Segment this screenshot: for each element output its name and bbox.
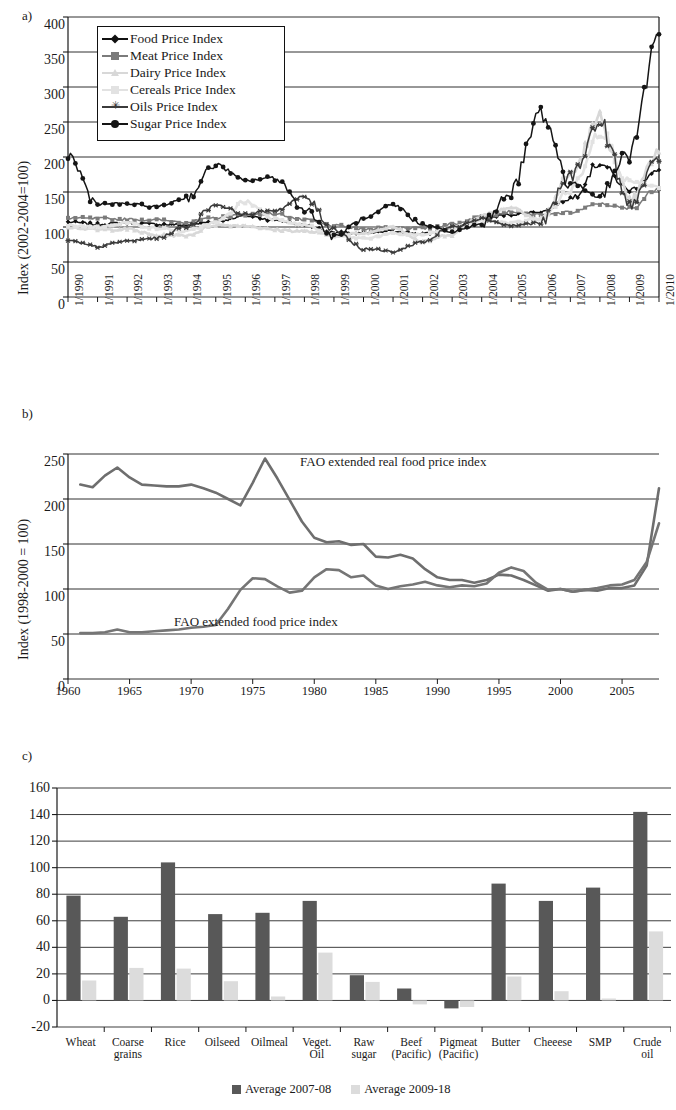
- panel-a-legend-item-0: Food Price Index: [102, 30, 278, 47]
- panel-c-legend-item-0: Average 2007-08: [232, 1082, 331, 1097]
- panel-b-xtick-2000: 2000: [541, 684, 581, 699]
- panel-c-category-smp: SMP: [573, 1036, 627, 1048]
- legend-marker-square-icon: [102, 49, 128, 63]
- panel-a-xtick-1-2008: 1/2008: [605, 274, 617, 306]
- panel-a-xtick-1-1997: 1/1997: [280, 274, 292, 306]
- panel-b-xtick-1975: 1975: [233, 684, 273, 699]
- panel-a-legend-label: Dairy Price Index: [130, 66, 226, 80]
- legend-marker-asterisk-icon: ✳: [102, 100, 128, 114]
- panel-c-legend: Average 2007-08Average 2009-18: [232, 1082, 464, 1097]
- panel-a-legend-label: Oils Price Index: [130, 100, 218, 114]
- legend-marker-circle-icon: [102, 117, 128, 131]
- panel-c-category-cheeese: Cheeese: [526, 1036, 580, 1048]
- panel-a: a) Index (2002-2004=100) 0 50 100 150 20…: [0, 0, 671, 395]
- panel-b-xtick-1995: 1995: [479, 684, 519, 699]
- panel-a-xtick-1-1991: 1/1991: [103, 274, 115, 306]
- panel-c-category-oilseed: Oilseed: [195, 1036, 249, 1048]
- panel-a-xtick-1-1990: 1/1990: [73, 274, 85, 306]
- panel-a-legend-label: Food Price Index: [130, 32, 223, 46]
- panel-a-legend-label: Meat Price Index: [130, 49, 223, 63]
- panel-a-xtick-1-1999: 1/1999: [339, 274, 351, 306]
- panel-a-legend-label: Sugar Price Index: [130, 117, 227, 131]
- panel-a-xtick-1-1993: 1/1993: [162, 274, 174, 306]
- panel-c-category-crude-oil: Crude oil: [620, 1036, 674, 1060]
- panel-a-legend-item-5: Sugar Price Index: [102, 115, 278, 132]
- legend-marker-diamond-icon: [102, 32, 128, 46]
- panel-a-xtick-1-1992: 1/1992: [132, 274, 144, 306]
- panel-c-legend-label: Average 2007-08: [245, 1082, 331, 1097]
- panel-c-category-veget-oil: Veget. Oil: [290, 1036, 344, 1060]
- panel-a-xtick-1-2002: 1/2002: [428, 274, 440, 306]
- panel-a-xtick-1-1994: 1/1994: [191, 274, 203, 306]
- panel-a-legend-item-1: Meat Price Index: [102, 47, 278, 64]
- panel-a-legend-item-4: ✳Oils Price Index: [102, 98, 278, 115]
- panel-c: c) -20020406080100120140160 WheatCoarse …: [0, 742, 671, 1110]
- panel-a-xtick-1-1995: 1/1995: [221, 274, 233, 306]
- panel-a-legend-item-2: Dairy Price Index: [102, 64, 278, 81]
- panel-b-xtick-1960: 1960: [48, 684, 88, 699]
- panel-b-xtick-1990: 1990: [417, 684, 457, 699]
- panel-c-category-beef-pacific: Beef (Pacific): [384, 1036, 438, 1060]
- panel-a-xtick-1-2001: 1/2001: [398, 274, 410, 306]
- panel-c-category-rice: Rice: [148, 1036, 202, 1048]
- panel-a-xtick-1-2000: 1/2000: [369, 274, 381, 306]
- panel-a-legend: Food Price IndexMeat Price IndexDairy Pr…: [97, 26, 285, 141]
- panel-a-legend-item-3: Cereals Price Index: [102, 81, 278, 98]
- panel-b-annotation-nominal: FAO extended food price index: [174, 614, 338, 630]
- panel-b-annotation-real: FAO extended real food price index: [300, 454, 486, 470]
- panel-c-category-pigmeat-pacific: Pigmeat (Pacific): [431, 1036, 485, 1060]
- panel-a-legend-label: Cereals Price Index: [130, 83, 236, 97]
- panel-c-plot: [0, 742, 671, 1052]
- panel-b-xtick-2005: 2005: [602, 684, 642, 699]
- legend-marker-triangle-icon: [102, 66, 128, 80]
- legend-swatch-icon: [351, 1085, 360, 1094]
- panel-c-category-butter: Butter: [479, 1036, 533, 1048]
- panel-b-xtick-1985: 1985: [356, 684, 396, 699]
- panel-b: b) Index (1998-2000 = 100) 0 50 100 150 …: [0, 398, 671, 738]
- panel-c-category-coarse-grains: Coarse grains: [101, 1036, 155, 1060]
- panel-c-category-wheat: Wheat: [54, 1036, 108, 1048]
- panel-b-plot: [0, 398, 671, 698]
- panel-a-xtick-1-2009: 1/2009: [634, 274, 646, 306]
- panel-a-xtick-1-2007: 1/2007: [575, 274, 587, 306]
- panel-a-xtick-1-2010: 1/2010: [664, 274, 676, 306]
- panel-b-xtick-1980: 1980: [294, 684, 334, 699]
- panel-a-xtick-1-1998: 1/1998: [309, 274, 321, 306]
- legend-marker-square-icon: [102, 83, 128, 97]
- panel-a-xtick-1-2005: 1/2005: [516, 274, 528, 306]
- panel-c-legend-item-1: Average 2009-18: [351, 1082, 450, 1097]
- panel-a-xtick-1-1996: 1/1996: [250, 274, 262, 306]
- panel-b-xtick-1970: 1970: [171, 684, 211, 699]
- panel-c-category-raw-sugar: Raw sugar: [337, 1036, 391, 1060]
- panel-a-xtick-1-2004: 1/2004: [487, 274, 499, 306]
- panel-a-xtick-1-2006: 1/2006: [546, 274, 558, 306]
- legend-swatch-icon: [232, 1085, 241, 1094]
- panel-c-legend-label: Average 2009-18: [364, 1082, 450, 1097]
- panel-c-category-oilmeal: Oilmeal: [243, 1036, 297, 1048]
- panel-b-xtick-1965: 1965: [110, 684, 150, 699]
- panel-a-xtick-1-2003: 1/2003: [457, 274, 469, 306]
